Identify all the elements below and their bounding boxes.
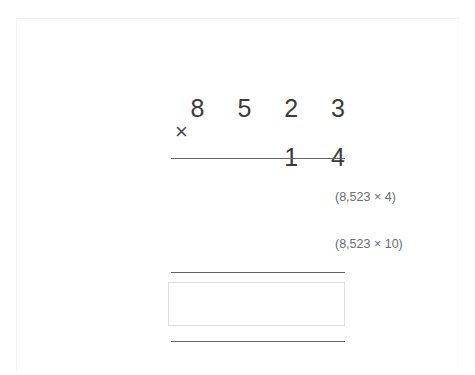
- long-multiplication-problem: 8 5 2 3 × 1 4 (8,523 × 4) (8,523 × 10): [0, 0, 475, 375]
- partial-product-ones-label: (8,523 × 4): [335, 191, 396, 204]
- rule-under-operands: [171, 158, 345, 159]
- answer-input-box[interactable]: [168, 282, 345, 326]
- rule-above-answer: [171, 272, 345, 273]
- partial-product-tens-label: (8,523 × 10): [335, 238, 403, 251]
- multiplicand-digits: 8 5 2 3: [191, 94, 358, 122]
- rule-below-answer: [171, 341, 345, 342]
- multiplier-digits: 1 4: [284, 143, 358, 171]
